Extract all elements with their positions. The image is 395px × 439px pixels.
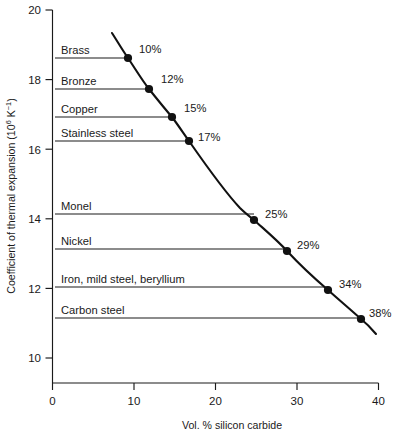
x-tick-label-10: 10: [128, 395, 141, 407]
data-point-brass: [124, 54, 132, 62]
data-point-monel: [250, 216, 258, 224]
y-tick-label-10: 10: [28, 352, 41, 364]
data-point-stainless-steel: [185, 137, 193, 145]
chart-container: 20 18 16 14 12 10 0 10 20 30 40 Coeffici…: [0, 0, 395, 439]
x-axis-ticks: [53, 383, 379, 390]
value-label-monel: 25%: [265, 208, 287, 220]
y-axis-title-mid: K: [5, 110, 17, 120]
y-axis-title-main: Coefficient of thermal expansion (10: [5, 124, 17, 294]
data-series-curve: [112, 33, 376, 334]
annotation-label-brass: Brass: [61, 44, 90, 56]
x-tick-label-0: 0: [49, 395, 55, 407]
annotation-label-copper: Copper: [61, 103, 98, 115]
data-point-nickel: [283, 247, 291, 255]
y-tick-label-12: 12: [28, 283, 41, 295]
x-tick-label-40: 40: [372, 395, 385, 407]
y-tick-label-18: 18: [28, 74, 41, 86]
value-label-iron-mild-steel-beryllium: 34%: [339, 278, 361, 290]
data-point-carbon-steel: [357, 315, 365, 323]
data-point-iron-mild-steel-beryllium: [324, 286, 332, 294]
svg-text:Coefficient of thermal expansi: Coefficient of thermal expansion (106 K−…: [4, 98, 17, 294]
value-label-nickel: 29%: [297, 239, 319, 251]
value-label-brass: 10%: [139, 43, 161, 55]
x-axis-title-text: Vol. % silicon carbide: [182, 419, 282, 431]
thermal-expansion-line-chart: 20 18 16 14 12 10 0 10 20 30 40 Coeffici…: [0, 0, 395, 439]
annotation-label-bronze: Bronze: [61, 75, 96, 87]
x-axis-tick-labels: 0 10 20 30 40: [49, 395, 385, 407]
y-tick-label-14: 14: [28, 213, 41, 225]
annotation-label-carbon-steel: Carbon steel: [61, 304, 124, 316]
x-tick-label-20: 20: [209, 395, 222, 407]
y-axis-title-tail: ): [5, 98, 17, 102]
value-label-stainless-steel: 17%: [198, 131, 220, 143]
y-axis-title-exponent-minus1: −1: [4, 102, 13, 110]
value-label-copper: 15%: [184, 102, 206, 114]
y-axis-ticks: [46, 10, 53, 358]
annotation-label-stainless-steel: Stainless steel: [61, 127, 133, 139]
y-axis-tick-labels: 20 18 16 14 12 10: [28, 4, 41, 364]
data-point-copper: [168, 113, 176, 121]
annotation-label-iron-mild-steel-beryllium: Iron, mild steel, beryllium: [61, 273, 185, 285]
data-point-bronze: [145, 85, 153, 93]
value-label-carbon-steel: 38%: [369, 307, 391, 319]
value-label-bronze: 12%: [161, 73, 183, 85]
annotation-label-monel: Monel: [61, 200, 91, 212]
x-tick-label-30: 30: [291, 395, 304, 407]
x-axis-title: Vol. % silicon carbide: [182, 419, 282, 431]
y-tick-label-16: 16: [28, 144, 41, 156]
annotation-label-nickel: Nickel: [61, 235, 91, 247]
y-axis-title: Coefficient of thermal expansion (106 K−…: [4, 98, 17, 294]
y-tick-label-20: 20: [28, 4, 41, 16]
